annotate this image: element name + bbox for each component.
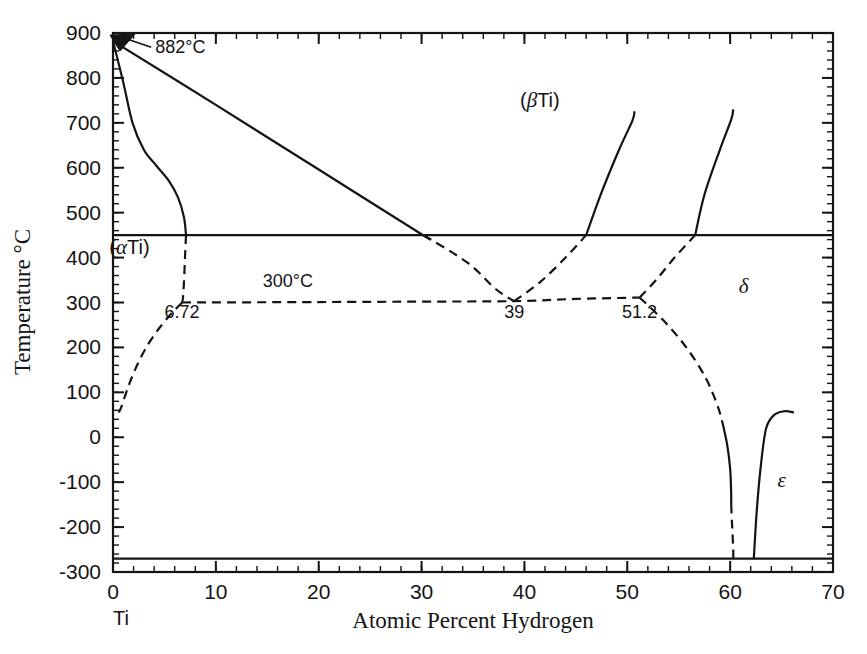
y-tick-label: -300: [59, 560, 101, 583]
annotation-allotropic-point: 882°C: [155, 37, 205, 57]
y-tick-label: 300: [66, 291, 101, 314]
phase-diagram-svg: 010203040506070 -300-200-100010020030040…: [0, 0, 867, 654]
annotation-delta-eutectoid-comp: 51.2: [622, 302, 657, 322]
y-axis-title: Temperature °C: [10, 229, 35, 375]
x-tick-label: 70: [821, 580, 844, 603]
y-tick-label: 600: [66, 156, 101, 179]
y-tick-label: 900: [66, 21, 101, 44]
y-tick-label: 200: [66, 335, 101, 358]
x-tick-label: 0: [107, 580, 119, 603]
phase-diagram-figure: 010203040506070 -300-200-100010020030040…: [0, 0, 867, 654]
x-axis-title: Atomic Percent Hydrogen: [352, 608, 594, 633]
phase-label-beta-ti: (βTi): [520, 88, 560, 112]
x-tick-label: 50: [616, 580, 639, 603]
y-tick-label: -200: [59, 515, 101, 538]
annotation-alpha-eutectoid-comp: 6.72: [165, 302, 200, 322]
x-tick-label: 60: [718, 580, 741, 603]
annotation-eutectoid-comp: 39: [504, 302, 524, 322]
phase-label-epsilon: ε: [777, 468, 786, 492]
y-tick-label: 800: [66, 66, 101, 89]
x-axis-origin-element-label: Ti: [113, 607, 129, 629]
y-tick-label: 0: [89, 425, 101, 448]
y-tick-label: -100: [59, 470, 101, 493]
y-tick-label: 700: [66, 111, 101, 134]
annotation-eutectoid-temp: 300°C: [263, 271, 313, 291]
y-tick-label: 500: [66, 201, 101, 224]
x-tick-label: 10: [204, 580, 227, 603]
phase-label-delta: δ: [739, 274, 750, 298]
phase-label-alpha-ti: (αTi): [109, 235, 149, 259]
x-tick-label: 30: [410, 580, 433, 603]
x-tick-label: 40: [513, 580, 536, 603]
y-tick-label: 400: [66, 246, 101, 269]
y-tick-label: 100: [66, 380, 101, 403]
x-tick-label: 20: [307, 580, 330, 603]
figure-background: [0, 0, 867, 654]
